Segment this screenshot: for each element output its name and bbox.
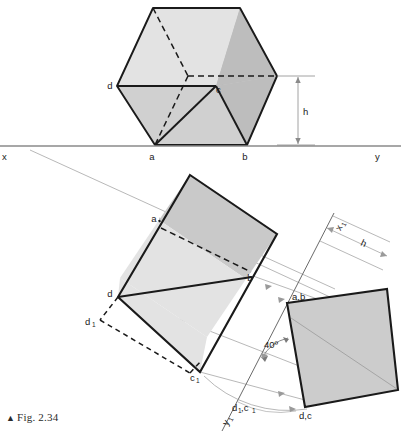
label-a-front: a — [151, 213, 157, 224]
ground-line-axis: x y — [0, 146, 401, 162]
label-d1-base: d — [85, 316, 90, 327]
height-dimension-auxiliary: h — [320, 216, 390, 270]
tick-arrow-1 — [265, 284, 272, 290]
figure-caption: ▲Fig. 2.34 — [6, 411, 58, 423]
label-d1c1-base: d — [232, 402, 237, 413]
label-d1-subscript: 1 — [92, 321, 96, 328]
label-d1-front: d 1 — [85, 316, 96, 328]
angle-marker-40: 40º — [261, 337, 289, 362]
label-d1c1-auxiliary: d 1 ,c 1 — [232, 402, 256, 414]
label-b-top: b — [242, 151, 247, 162]
revolution-arc-lower — [204, 376, 307, 410]
h-arrow-down — [295, 138, 300, 144]
label-h-auxiliary: h — [359, 237, 368, 249]
tick-arrow-2 — [278, 297, 285, 303]
h-arrow-up — [295, 77, 300, 83]
figure-root: d c a b h x y — [0, 0, 401, 433]
front-view-rectangles: a b d d 1 c 1 — [85, 175, 285, 384]
label-d1c1-sub2: 1 — [252, 407, 256, 414]
aux-h-arrow-start — [327, 227, 334, 233]
aux-h-ext-lower — [320, 241, 383, 270]
auxiliary-view-square: a,b d,c — [287, 289, 398, 421]
label-dc-auxiliary: d,c — [299, 410, 312, 421]
label-x1: x 1 — [332, 218, 347, 232]
aux-square-face — [287, 289, 398, 407]
front-hidden-edge-d-d1 — [100, 297, 118, 320]
label-d1c1-mid: ,c — [241, 402, 249, 413]
label-c-top: c — [216, 84, 221, 95]
front-rect-divider-2 — [159, 220, 160, 222]
label-d-top: d — [107, 80, 112, 91]
label-ab-auxiliary: a,b — [292, 291, 305, 302]
caption-text: Fig. 2.34 — [17, 411, 58, 423]
top-view-cube: d c a b — [107, 8, 277, 162]
label-h-top: h — [303, 106, 308, 117]
caption-triangle-icon: ▲ — [6, 413, 15, 423]
tick-arrow-4 — [278, 391, 285, 397]
label-b-front: b — [247, 272, 252, 283]
label-axis-y: y — [375, 151, 380, 162]
label-a-top: a — [149, 151, 155, 162]
label-c1-front: c 1 — [190, 372, 200, 384]
aux-h-arrow-end — [380, 251, 387, 257]
label-c1-subscript: 1 — [196, 377, 200, 384]
label-angle-40: 40º — [264, 339, 279, 350]
label-axis-x: x — [2, 151, 7, 162]
angle-arrow-right — [283, 337, 289, 343]
technical-drawing: d c a b h x y — [0, 0, 401, 433]
label-d-front: d — [107, 288, 112, 299]
label-c1-base: c — [190, 372, 195, 383]
height-dimension-top: h — [277, 76, 315, 145]
aux-h-dim-line — [327, 228, 387, 256]
